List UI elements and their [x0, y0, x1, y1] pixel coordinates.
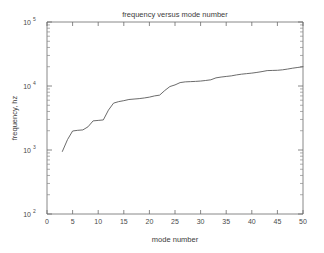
y-tick-label: 10 [23, 147, 31, 154]
y-axis-tick-labels: 102103104105 [23, 16, 36, 218]
x-tick-label: 25 [171, 218, 179, 225]
x-axis-tick-labels: 05101520253035404550 [45, 218, 307, 225]
y-tick-exponent: 2 [33, 208, 36, 214]
y-tick-label: 10 [23, 211, 31, 218]
y-tick-exponent: 3 [33, 144, 36, 150]
x-axis-label: mode number [152, 235, 199, 244]
figure-canvas: 102103104105 05101520253035404550 freque… [0, 0, 324, 253]
x-tick-label: 15 [120, 218, 128, 225]
x-tick-label: 35 [222, 218, 230, 225]
x-tick-label: 5 [71, 218, 75, 225]
x-tick-label: 45 [274, 218, 282, 225]
x-tick-label: 30 [197, 218, 205, 225]
y-tick-label: 10 [23, 83, 31, 90]
x-tick-label: 0 [45, 218, 49, 225]
y-tick-label: 10 [23, 19, 31, 26]
plot-background [47, 22, 303, 214]
y-tick-exponent: 5 [33, 16, 36, 22]
x-tick-label: 20 [146, 218, 154, 225]
chart-title: frequency versus mode number [122, 10, 228, 19]
y-tick-exponent: 4 [33, 80, 36, 86]
x-tick-label: 10 [94, 218, 102, 225]
x-tick-label: 50 [299, 218, 307, 225]
x-tick-label: 40 [248, 218, 256, 225]
y-axis-label: frequency, hz [10, 96, 19, 141]
frequency-vs-mode-number-chart: 102103104105 05101520253035404550 freque… [0, 0, 324, 253]
